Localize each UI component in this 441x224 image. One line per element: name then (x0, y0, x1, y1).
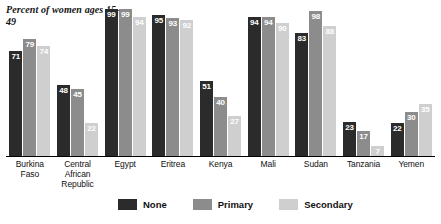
bar-value-label: 90 (276, 24, 289, 33)
bar-group: 839888 (292, 8, 340, 156)
category-label: Eritrea (149, 159, 197, 189)
bar: 94 (248, 17, 261, 156)
bar: 17 (357, 131, 370, 156)
bar: 74 (37, 46, 50, 156)
axis-baseline (6, 156, 435, 157)
bar-value-label: 94 (133, 18, 146, 27)
bar: 40 (214, 97, 227, 156)
bar: 92 (180, 20, 193, 156)
bar-value-label: 93 (166, 19, 179, 28)
bar-value-label: 92 (180, 21, 193, 30)
plot-area: 7179744845229999949593925140279494908398… (6, 8, 435, 156)
bar-value-label: 98 (309, 12, 322, 21)
bar: 27 (228, 116, 241, 156)
bar: 45 (71, 89, 84, 156)
category-label: Kenya (197, 159, 245, 189)
bar-group: 959392 (149, 8, 197, 156)
bar-value-label: 94 (248, 18, 261, 27)
category-label: Yemen (387, 159, 435, 189)
category-label: CentralAfricanRepublic (54, 159, 102, 189)
bar-value-label: 7 (371, 147, 384, 156)
bar-value-label: 35 (419, 105, 432, 114)
bar-value-label: 17 (357, 132, 370, 141)
bar: 79 (23, 39, 36, 156)
bar: 99 (105, 9, 118, 156)
bar: 94 (133, 17, 146, 156)
bar-groups: 7179744845229999949593925140279494908398… (6, 8, 435, 156)
bar: 95 (152, 15, 165, 156)
category-label: BurkinaFaso (6, 159, 54, 189)
bar-value-label: 71 (9, 52, 22, 61)
bar: 99 (119, 9, 132, 156)
bar: 51 (200, 81, 213, 156)
category-labels: BurkinaFasoCentralAfricanRepublicEgyptEr… (6, 159, 435, 189)
category-label: Tanzania (340, 159, 388, 189)
category-label: Sudan (292, 159, 340, 189)
bar-value-label: 22 (391, 124, 404, 133)
bar-value-label: 79 (23, 40, 36, 49)
bar: 94 (262, 17, 275, 156)
bar: 71 (9, 51, 22, 156)
bar-value-label: 45 (71, 90, 84, 99)
bar-chart: Percent of women ages 15–49 717974484522… (0, 0, 441, 224)
bar-value-label: 23 (343, 123, 356, 132)
bar-value-label: 99 (105, 10, 118, 19)
legend-item[interactable]: Secondary (279, 199, 353, 210)
bar-group: 514027 (197, 8, 245, 156)
bar-group: 23177 (340, 8, 388, 156)
bar-group: 717974 (6, 8, 54, 156)
bar: 90 (276, 23, 289, 156)
bar: 98 (309, 11, 322, 156)
legend-label: None (143, 199, 167, 210)
category-label: Egypt (101, 159, 149, 189)
legend-swatch (118, 199, 137, 210)
bar: 93 (166, 18, 179, 156)
legend-swatch (279, 199, 298, 210)
bar-value-label: 95 (152, 16, 165, 25)
bar-value-label: 48 (57, 86, 70, 95)
legend-label: Secondary (304, 199, 353, 210)
category-label: Mali (244, 159, 292, 189)
bar-group: 223035 (387, 8, 435, 156)
bar-value-label: 27 (228, 117, 241, 126)
bar-group: 949490 (244, 8, 292, 156)
chart-legend: NonePrimarySecondary (118, 199, 428, 210)
bar: 48 (57, 85, 70, 156)
bar-value-label: 74 (37, 47, 50, 56)
bar-value-label: 30 (405, 113, 418, 122)
bar-group: 484522 (54, 8, 102, 156)
bar-value-label: 40 (214, 98, 227, 107)
bar: 83 (295, 33, 308, 156)
bar-group: 999994 (101, 8, 149, 156)
bar: 23 (343, 122, 356, 156)
legend-swatch (193, 199, 212, 210)
legend-item[interactable]: None (118, 199, 167, 210)
bar-value-label: 99 (119, 10, 132, 19)
legend-label: Primary (218, 199, 253, 210)
bar-value-label: 83 (295, 34, 308, 43)
bar-value-label: 22 (85, 124, 98, 133)
bar: 30 (405, 112, 418, 156)
bar: 88 (323, 26, 336, 156)
bar: 7 (371, 146, 384, 156)
bar-value-label: 94 (262, 18, 275, 27)
bar: 22 (391, 123, 404, 156)
bar: 35 (419, 104, 432, 156)
bar-value-label: 51 (200, 82, 213, 91)
legend-item[interactable]: Primary (193, 199, 253, 210)
bar-value-label: 88 (323, 27, 336, 36)
bar: 22 (85, 123, 98, 156)
